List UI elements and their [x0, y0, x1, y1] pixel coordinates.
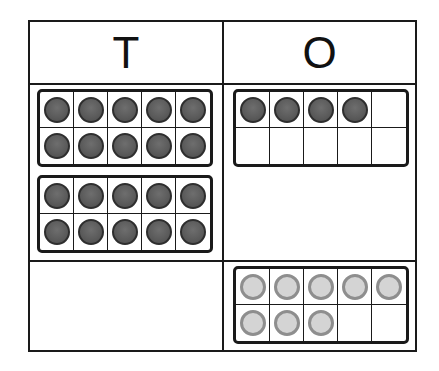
dark-counter-icon	[112, 183, 138, 209]
dark-counter-icon	[180, 183, 206, 209]
light-counter-icon	[342, 274, 368, 300]
dark-counter-icon	[44, 183, 70, 209]
ten-frame-cell	[108, 92, 142, 128]
dark-counter-icon	[112, 97, 138, 123]
dark-counter-icon	[180, 133, 206, 159]
dark-counter-icon	[146, 219, 172, 245]
dark-counter-icon	[146, 97, 172, 123]
light-counter-icon	[274, 274, 300, 300]
ten-frame-cell	[236, 305, 270, 341]
ten-frame-cell	[40, 178, 74, 214]
ten-frame-cell	[40, 214, 74, 250]
light-counter-icon	[376, 274, 402, 300]
dark-counter-icon	[78, 219, 104, 245]
dark-counter-icon	[44, 97, 70, 123]
ten-frame-cell	[142, 128, 176, 164]
ten-frame-cell	[372, 269, 406, 305]
ten-frame-cell	[108, 128, 142, 164]
ten-frame-cell	[74, 128, 108, 164]
ten-frame-ones-1	[233, 89, 409, 167]
ten-frame-cell	[108, 214, 142, 250]
ten-frame-cell	[304, 128, 338, 164]
dark-counter-icon	[180, 219, 206, 245]
dark-counter-icon	[78, 183, 104, 209]
ten-frame-cell	[236, 269, 270, 305]
ten-frame-cell	[372, 128, 406, 164]
ten-frame-cell	[74, 92, 108, 128]
light-counter-icon	[240, 310, 266, 336]
ten-frame-cell	[304, 269, 338, 305]
dark-counter-icon	[112, 133, 138, 159]
dark-counter-icon	[44, 133, 70, 159]
dark-counter-icon	[342, 97, 368, 123]
dark-counter-icon	[308, 97, 334, 123]
light-counter-icon	[240, 274, 266, 300]
ten-frame-cell	[270, 269, 304, 305]
ten-frame-cell	[236, 92, 270, 128]
ten-frame-cell	[372, 305, 406, 341]
column-divider	[222, 22, 224, 350]
ten-frame-tens-2	[37, 175, 213, 253]
ten-frame-cell	[142, 178, 176, 214]
light-counter-icon	[308, 310, 334, 336]
ten-frame-cell	[270, 92, 304, 128]
light-counter-icon	[274, 310, 300, 336]
dark-counter-icon	[274, 97, 300, 123]
ten-frame-cell	[338, 305, 372, 341]
dark-counter-icon	[240, 97, 266, 123]
ten-frame-cell	[176, 92, 210, 128]
ten-frame-cell	[74, 214, 108, 250]
ten-frame-ones-2	[233, 266, 409, 344]
ten-frame-cell	[372, 92, 406, 128]
dark-counter-icon	[146, 183, 172, 209]
dark-counter-icon	[78, 97, 104, 123]
ten-frame-cell	[176, 214, 210, 250]
place-value-chart: T O	[28, 20, 417, 352]
ten-frame-cell	[176, 128, 210, 164]
ten-frame-cell	[270, 305, 304, 341]
ten-frame-cell	[338, 128, 372, 164]
ten-frame-cell	[74, 178, 108, 214]
ten-frame-cell	[304, 92, 338, 128]
ten-frame-tens-1	[37, 89, 213, 167]
ten-frame-cell	[142, 92, 176, 128]
ten-frame-cell	[40, 128, 74, 164]
ten-frame-cell	[338, 269, 372, 305]
tens-header: T	[30, 22, 222, 84]
dark-counter-icon	[146, 133, 172, 159]
dark-counter-icon	[112, 219, 138, 245]
dark-counter-icon	[78, 133, 104, 159]
ten-frame-cell	[236, 128, 270, 164]
ten-frame-cell	[338, 92, 372, 128]
ones-header: O	[224, 22, 415, 84]
light-counter-icon	[308, 274, 334, 300]
ten-frame-cell	[40, 92, 74, 128]
dark-counter-icon	[180, 97, 206, 123]
ten-frame-cell	[108, 178, 142, 214]
dark-counter-icon	[44, 219, 70, 245]
ten-frame-cell	[176, 178, 210, 214]
ten-frame-cell	[304, 305, 338, 341]
ten-frame-cell	[270, 128, 304, 164]
ten-frame-cell	[142, 214, 176, 250]
